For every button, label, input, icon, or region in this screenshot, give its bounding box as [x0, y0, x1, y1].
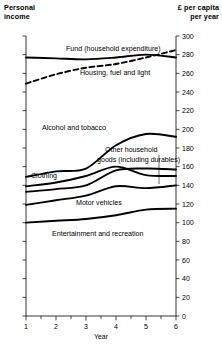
y-axis-tick-label: 220 — [182, 107, 194, 114]
series-label-1: Housing, fuel and light — [80, 69, 150, 77]
y-axis-tick-label: 140 — [182, 182, 194, 189]
x-axis-tick-label: 2 — [54, 323, 58, 330]
series-label-6: Entertainment and recreation — [52, 230, 144, 238]
series-label-5: Motor vehicles — [76, 199, 122, 207]
x-axis-tick-label: 6 — [174, 323, 178, 330]
line-chart-plot: 0204060801001201401601802002202402602803… — [0, 0, 222, 346]
series-label-3-line1: Other household — [105, 146, 158, 154]
chart-container: Personal income £ per capita per year 02… — [0, 0, 222, 346]
series-label-4: Clothing — [31, 172, 57, 180]
y-axis-tick-label: 60 — [182, 257, 190, 264]
y-axis-tick-label: 200 — [182, 126, 194, 133]
right-axis: 0204060801001201401601802002202402602803… — [176, 33, 194, 320]
x-axis-tick-label: 5 — [144, 323, 148, 330]
y-axis-tick-label: 300 — [182, 33, 194, 40]
series-label-2: Alcohol and tobacco — [42, 124, 106, 132]
y-axis-tick-label: 260 — [182, 70, 194, 77]
y-axis-tick-label: 20 — [182, 294, 190, 301]
x-axis-tick-label: 3 — [84, 323, 88, 330]
left-axis — [23, 36, 27, 316]
y-axis-tick-label: 180 — [182, 145, 194, 152]
y-axis-tick-label: 100 — [182, 219, 194, 226]
series-line-1 — [26, 50, 176, 84]
x-axis-title: Year — [94, 333, 109, 340]
series-line-6 — [26, 209, 176, 223]
y-axis-tick-label: 80 — [182, 238, 190, 245]
series-label-0: Fund (household expenditure) — [66, 45, 161, 53]
y-axis-tick-label: 120 — [182, 201, 194, 208]
y-axis-tick-label: 160 — [182, 163, 194, 170]
series-label-3-line2: goods (including durables) — [97, 156, 180, 164]
y-axis-tick-label: 280 — [182, 51, 194, 58]
x-axis-tick-label: 4 — [114, 323, 118, 330]
y-axis-tick-label: 0 — [182, 313, 186, 320]
y-axis-tick-label: 40 — [182, 275, 190, 282]
x-axis-tick-label: 1 — [24, 323, 28, 330]
x-axis: 123456Year — [24, 316, 178, 340]
y-axis-tick-label: 240 — [182, 89, 194, 96]
